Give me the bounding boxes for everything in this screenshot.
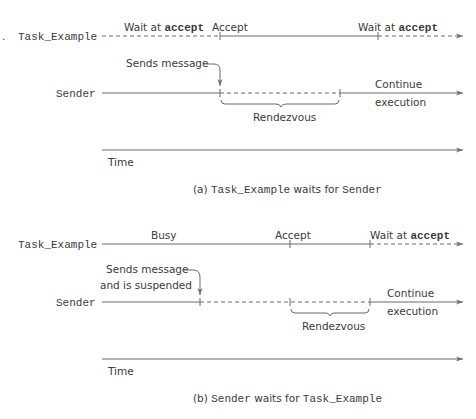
rendezvous-diagram: . Task_Example Wait at accept Accept Wai…: [0, 0, 476, 419]
sender-label: Sender: [56, 297, 96, 309]
continue-label: Continue: [375, 78, 422, 90]
busy-label: Busy: [151, 229, 177, 241]
suspended-label: and is suspended: [100, 279, 192, 291]
time-label: Time: [107, 156, 134, 168]
task-example-label: Task_Example: [18, 31, 97, 43]
accept-label: Accept: [212, 21, 248, 33]
caption-a: (a) Task_Example waits for Sender: [193, 183, 382, 196]
continue-label: Continue: [387, 287, 434, 299]
task-example-label: Task_Example: [18, 239, 97, 251]
dot-marker: .: [2, 30, 5, 42]
rendezvous-label: Rendezvous: [253, 111, 316, 123]
time-label: Time: [107, 365, 134, 377]
execution-label: execution: [387, 305, 438, 317]
sends-message-label: Sends message: [126, 57, 208, 69]
rendezvous-brace: [291, 309, 369, 316]
caption-b: (b) Sender waits for Task_Example: [193, 392, 382, 405]
panel-b: Task_Example Busy Accept Wait at accept …: [18, 229, 463, 405]
wait-at-accept-label: Wait at accept: [124, 21, 204, 34]
execution-label: execution: [375, 96, 426, 108]
wait-at-accept-label: Wait at accept: [370, 229, 450, 242]
sender-label: Sender: [56, 88, 96, 100]
accept-label: Accept: [275, 229, 311, 241]
panel-a: . Task_Example Wait at accept Accept Wai…: [2, 21, 463, 196]
rendezvous-brace: [221, 100, 339, 107]
rendezvous-label: Rendezvous: [302, 320, 365, 332]
sends-message-label: Sends message: [106, 263, 188, 275]
wait-at-accept-label-2: Wait at accept: [358, 21, 438, 34]
